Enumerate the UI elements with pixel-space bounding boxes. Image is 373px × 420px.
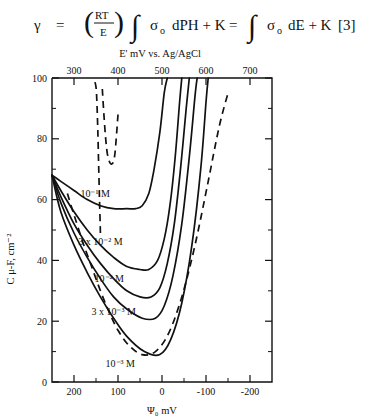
y-tick-label: 100: [32, 73, 47, 84]
paren-open: (: [84, 5, 94, 39]
top-axis-title: E' mV vs. Ag/AgCl: [119, 48, 201, 59]
curve-3x10-3-M: [52, 78, 197, 320]
y-tick-label: 80: [37, 133, 47, 144]
curve-label-10-1-M: 10⁻¹ M: [80, 188, 109, 199]
y-axis-title-group: C μ-F, cm⁻²: [5, 234, 16, 285]
top-tick-label: 600: [199, 65, 214, 76]
top-tick-label: 500: [155, 65, 170, 76]
gamma-symbol: γ: [33, 17, 41, 33]
sigma-symbol-1: σ: [150, 17, 158, 33]
equals-sign-2: =: [229, 17, 237, 33]
sigma-subscript-2: o: [277, 25, 282, 36]
equation-svg: γ = ( RT E ) ∫ σ o dPH + K = ∫ σ o dE + …: [0, 0, 373, 48]
equation-number: [3]: [338, 17, 356, 33]
curve-10-1-dashed: [102, 87, 118, 164]
x-axis-title: Ψ₀ mV: [147, 405, 177, 416]
capacitance-chart: E' mV vs. Ag/AgCl C μ-F, cm⁻² Ψ₀ mV 2001…: [0, 44, 373, 420]
curve-10-2-M: [52, 78, 189, 298]
top-tick-label: 700: [243, 65, 258, 76]
x-tick-label: 0: [160, 386, 165, 397]
paren-close: ): [114, 5, 124, 39]
y-axis-title: C μ-F, cm⁻²: [5, 234, 16, 285]
y-tick-label: 60: [37, 194, 47, 205]
chart-plot-area: E' mV vs. Ag/AgCl C μ-F, cm⁻² Ψ₀ mV 2001…: [0, 44, 373, 420]
sigma-symbol-2: σ: [267, 17, 275, 33]
curve-label-3x10-2-M: 3 x 10⁻² M: [78, 236, 122, 247]
equals-sign-1: =: [56, 17, 64, 33]
axis-tick-labels: 2001000-100-2003004005006007000204060801…: [32, 65, 259, 397]
term-de-k: dE + K: [288, 17, 332, 33]
term-dph-k: dPH + K: [172, 17, 226, 33]
plot-frame: [52, 78, 272, 382]
integral-sign-2: ∫: [246, 9, 258, 45]
curve-label-10-3-M: 10⁻³ M: [106, 358, 135, 369]
x-tick-label: -100: [197, 386, 215, 397]
top-tick-label: 400: [111, 65, 126, 76]
curve-label-3x10-3-M: 3 x 10⁻³ M: [91, 306, 135, 317]
equation-block: γ = ( RT E ) ∫ σ o dPH + K = ∫ σ o dE + …: [0, 0, 373, 48]
fraction-numerator: RT: [95, 9, 109, 21]
y-tick-label: 40: [37, 255, 47, 266]
top-tick-label: 300: [67, 65, 82, 76]
x-tick-label: 200: [67, 386, 82, 397]
curve-series: [52, 78, 228, 355]
curve-10-1-dashed: [94, 78, 101, 233]
fraction-denominator: E: [100, 26, 107, 38]
axis-ticks: [52, 78, 272, 382]
sigma-subscript-1: o: [160, 25, 165, 36]
x-tick-label: -200: [241, 386, 259, 397]
curve-label-10-2-M: 10⁻² M: [95, 273, 124, 284]
integral-sign-1: ∫: [129, 9, 141, 45]
y-tick-label: 0: [42, 377, 47, 388]
x-tick-label: 100: [111, 386, 126, 397]
y-tick-label: 20: [37, 316, 47, 327]
